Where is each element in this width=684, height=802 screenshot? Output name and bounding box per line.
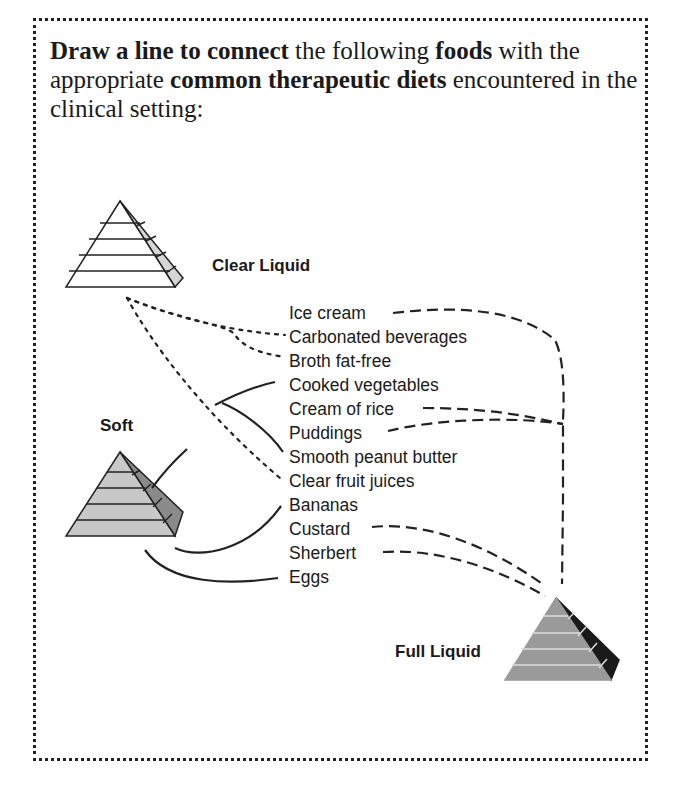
line-custard (372, 526, 545, 586)
diet-label-clear-liquid: Clear Liquid (212, 256, 310, 276)
diet-label-full-liquid: Full Liquid (395, 642, 481, 662)
food-item: Sherbert (289, 543, 356, 563)
soft-connections (145, 382, 283, 582)
food-item: Broth fat-free (289, 351, 391, 371)
soft-pyramid-icon (66, 452, 183, 536)
line-puddings (388, 420, 563, 431)
food-item: Cream of rice (289, 399, 394, 419)
food-item: Puddings (289, 423, 362, 443)
clear-liquid-pyramid-icon (66, 201, 183, 287)
line-broth (127, 298, 285, 357)
line-carbonated (127, 298, 285, 335)
food-item: Smooth peanut butter (289, 447, 457, 467)
full-liquid-pyramid-icon (505, 598, 619, 680)
line-sherbert (383, 552, 545, 596)
food-item: Carbonated beverages (289, 327, 467, 347)
food-item: Bananas (289, 495, 358, 515)
line-clear-juices (127, 298, 280, 478)
line-cooked-veg (215, 382, 275, 405)
line-eggs (145, 550, 278, 582)
line-bananas (175, 506, 281, 553)
line-soft-hub (152, 449, 187, 488)
clear-liquid-connections (127, 298, 285, 478)
food-item: Eggs (289, 567, 329, 587)
food-item: Clear fruit juices (289, 471, 414, 491)
diet-label-soft: Soft (100, 416, 133, 436)
food-item: Custard (289, 519, 350, 539)
food-item: Cooked vegetables (289, 375, 439, 395)
line-peanut-butter (222, 403, 283, 452)
food-item: Ice cream (289, 303, 366, 323)
